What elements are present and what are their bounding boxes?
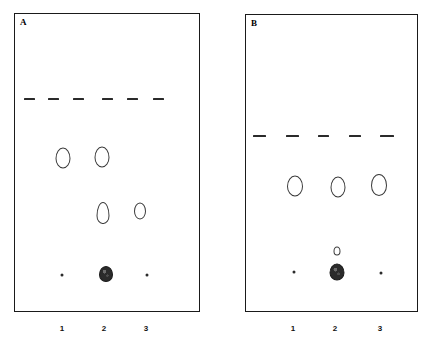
solvent-front-dash bbox=[127, 98, 138, 100]
solvent-front-dash bbox=[48, 98, 59, 100]
tlc-panel-b: B bbox=[245, 14, 418, 312]
lane-labels-b: 123 bbox=[0, 322, 430, 336]
solvent-front-dash bbox=[349, 135, 361, 137]
spot-a-lane2-upper bbox=[95, 147, 110, 168]
solvent-front-dash bbox=[102, 98, 113, 100]
spot-b-lane2-upper bbox=[331, 177, 346, 198]
spot-a-lane3-origin bbox=[146, 274, 149, 277]
tlc-panel-a: A bbox=[14, 13, 200, 312]
spot-a-lane1-upper bbox=[56, 148, 71, 169]
solvent-front-dash bbox=[380, 135, 394, 137]
lane-label-b-2: 2 bbox=[333, 322, 337, 336]
panel-letter-b: B bbox=[251, 18, 257, 28]
solvent-front-dash bbox=[253, 135, 266, 137]
spot-a-lane2-origin bbox=[99, 266, 113, 282]
solvent-front-dash bbox=[24, 98, 35, 100]
solvent-front-dash bbox=[73, 98, 84, 100]
lane-label-b-3: 3 bbox=[378, 322, 382, 336]
spot-a-lane1-origin bbox=[61, 274, 64, 277]
spot-b-lane3-origin bbox=[380, 272, 383, 275]
lane-label-b-1: 1 bbox=[291, 322, 295, 336]
spot-b-lane3-upper bbox=[371, 174, 387, 196]
solvent-front-dash bbox=[318, 135, 329, 137]
spot-b-lane1-origin bbox=[293, 271, 296, 274]
panel-letter-a: A bbox=[20, 17, 27, 27]
tlc-figure: A123B123 bbox=[0, 0, 430, 346]
solvent-front-dash bbox=[286, 135, 299, 137]
spot-b-lane2-origin bbox=[330, 264, 345, 281]
spot-b-lane1-upper bbox=[287, 176, 303, 197]
solvent-front-dash bbox=[153, 98, 164, 100]
spot-b-lane2-minor bbox=[334, 247, 341, 256]
spot-a-lane3-middle bbox=[134, 203, 146, 220]
spot-a-lane2-middle bbox=[97, 202, 110, 224]
